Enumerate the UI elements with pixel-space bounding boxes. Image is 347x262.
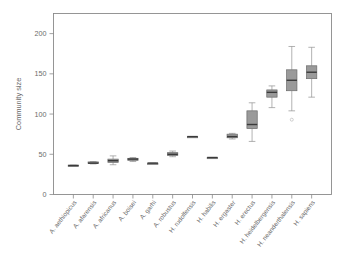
box-body — [247, 111, 257, 129]
box-plot-item — [187, 137, 197, 138]
y-tick-label: 100 — [35, 110, 47, 119]
x-axis-ticks — [73, 195, 311, 199]
box-plot-item — [128, 157, 138, 161]
box-plot-item — [68, 165, 78, 166]
x-axis-category-label: A. aethiopicus — [47, 199, 78, 236]
y-tick-label: 150 — [35, 69, 47, 78]
box-plot-item — [227, 133, 237, 139]
box-plot-item — [267, 86, 277, 108]
x-axis-category-label: A. garhi — [138, 199, 158, 221]
box-plot-item — [167, 151, 177, 157]
plot-frame — [54, 14, 332, 195]
box-plot-item — [247, 103, 257, 142]
y-tick-label: 0 — [43, 190, 47, 199]
x-axis-category-label: A. boisei — [117, 199, 138, 223]
box-plot-item — [287, 46, 297, 121]
x-axis-labels: A. aethiopicusA. afarensisA. africanusA.… — [47, 198, 316, 248]
box-plot-item — [306, 47, 316, 97]
box-plot-item — [148, 163, 158, 164]
box-body — [267, 90, 277, 97]
box-plot-item — [108, 156, 118, 165]
box-plot-item — [88, 162, 98, 164]
box-plot-item — [207, 157, 217, 158]
y-tick-label: 200 — [35, 29, 47, 38]
outlier-point — [290, 118, 293, 121]
boxplot-figure: 050100150200 A. aethiopicusA. afarensisA… — [0, 0, 347, 262]
box-plot-series — [68, 46, 317, 166]
y-axis-title: Community size — [14, 78, 23, 131]
x-axis-category-label: H. neanderthalensis — [256, 199, 297, 248]
y-tick-label: 50 — [39, 150, 47, 159]
plot-canvas: 050100150200 A. aethiopicusA. afarensisA… — [0, 0, 347, 262]
y-axis-ticks: 050100150200 — [35, 29, 54, 199]
